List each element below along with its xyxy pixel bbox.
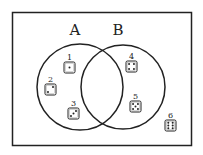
die-2: 2	[45, 75, 56, 95]
die-pip	[167, 122, 169, 124]
die-pip	[172, 122, 174, 124]
die-pip	[167, 127, 169, 129]
die-label: 3	[71, 99, 76, 108]
set-a-label: A	[69, 21, 81, 39]
die-4: 4	[126, 52, 137, 72]
die-pip	[69, 67, 71, 69]
die-pip	[137, 108, 139, 110]
die-pip	[70, 115, 72, 117]
die-pip	[128, 63, 130, 65]
die-label: 5	[133, 92, 138, 101]
die-label: 1	[67, 53, 72, 62]
die-pip	[167, 125, 169, 127]
die-pip	[172, 127, 174, 129]
venn-diagram: AB 123456	[0, 0, 203, 155]
die-pip	[132, 108, 134, 110]
die-pip	[47, 91, 49, 93]
die-pip	[135, 106, 137, 108]
set-b-label: B	[112, 21, 123, 39]
die-label: 4	[129, 52, 134, 61]
die-6: 6	[165, 111, 176, 131]
die-pip	[172, 125, 174, 127]
die-pip	[137, 103, 139, 105]
die-pip	[52, 86, 54, 88]
die-pip	[133, 68, 135, 70]
die-pip	[132, 103, 134, 105]
die-pip	[75, 110, 77, 112]
die-label: 2	[48, 75, 53, 84]
die-pip	[128, 68, 130, 70]
die-pip	[133, 63, 135, 65]
die-pip	[73, 113, 75, 115]
die-label: 6	[168, 111, 173, 120]
die-1: 1	[64, 53, 75, 73]
die-5: 5	[130, 92, 141, 112]
die-3: 3	[68, 99, 79, 119]
